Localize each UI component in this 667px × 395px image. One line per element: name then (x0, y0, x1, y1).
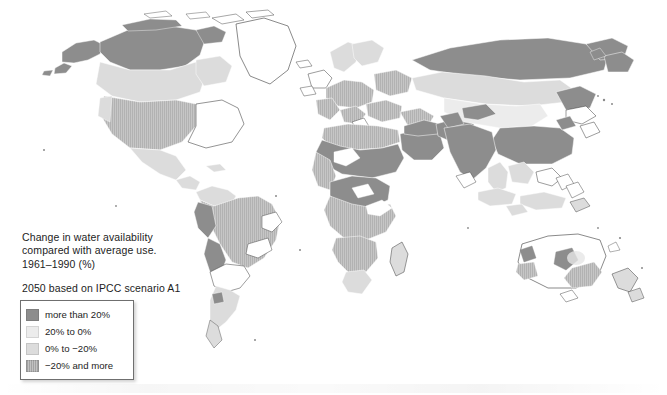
legend-label-0-to-minus-20: 0% to −20% (45, 343, 97, 354)
legend-item-more-than-20: more than 20% (26, 306, 127, 323)
legend-item-20-to-0: 20% to 0% (26, 323, 127, 340)
legend-swatch-dark-icon (26, 309, 39, 321)
legend-swatch-very-light-icon (26, 326, 39, 338)
legend-item-0-to-minus-20: 0% to −20% (26, 340, 127, 357)
map-caption: Change in water availability compared wi… (22, 231, 222, 271)
water-availability-map-figure: Change in water availability compared wi… (0, 0, 667, 395)
caption-line-2: compared with average use. (22, 244, 222, 257)
caption-line-3: 1961–1990 (%) (22, 258, 222, 271)
map-legend: more than 20% 20% to 0% 0% to −20% −20% … (20, 300, 134, 380)
legend-swatch-light-icon (26, 343, 39, 355)
legend-label-minus-20-and-more: −20% and more (45, 360, 113, 371)
scenario-note: 2050 based on IPCC scenario A1 (22, 282, 180, 295)
legend-swatch-mid-icon (26, 360, 39, 372)
legend-item-minus-20-and-more: −20% and more (26, 357, 127, 374)
legend-label-20-to-0: 20% to 0% (45, 326, 91, 337)
caption-line-1: Change in water availability (22, 231, 222, 244)
legend-label-more-than-20: more than 20% (45, 309, 110, 320)
